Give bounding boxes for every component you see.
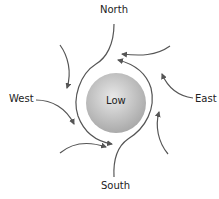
northwest-wind-arrow xyxy=(60,45,69,88)
center-label: Low xyxy=(106,95,126,106)
southeast-wind-arrow xyxy=(157,112,168,154)
west-label: West xyxy=(9,93,34,104)
northeast-wind-arrow xyxy=(122,46,170,55)
low-pressure-diagram: North South East West Low xyxy=(0,0,219,199)
east-label: East xyxy=(195,93,217,104)
north-label: North xyxy=(100,4,128,15)
southwest-wind-arrow xyxy=(60,144,106,153)
east-wind-arrow xyxy=(162,74,193,98)
west-wind-arrow xyxy=(36,100,74,124)
south-label: South xyxy=(101,180,130,191)
